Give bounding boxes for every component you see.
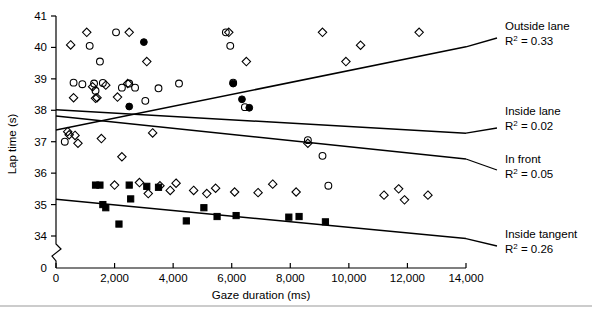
x-tick-label: 14,000 [448,272,483,284]
x-tick-label: 12,000 [390,272,425,284]
data-point [214,213,220,219]
legend-r-squared-label: R2 = 0.33 [505,34,553,47]
data-point [201,205,207,211]
x-tick-label: 8,000 [276,272,305,284]
y-axis-break-zero-label: 0 [41,262,47,274]
data-point [126,182,132,188]
data-point [116,221,122,227]
legend-r-squared-label: R2 = 0.26 [505,242,553,255]
y-tick-label: 36 [34,167,47,179]
data-point [239,96,246,103]
data-point [126,103,133,110]
legend-r-squared-label: R2 = 0.05 [505,167,553,180]
y-axis-title: Lap time (s) [6,113,18,174]
x-tick-label: 0 [53,272,59,284]
x-tick-label: 6,000 [217,272,246,284]
data-point [233,212,239,218]
data-point [144,183,150,189]
x-axis-title: Gaze duration (ms) [212,289,311,301]
data-point [103,205,109,211]
y-tick-label: 37 [34,136,47,148]
chart-canvas: 3435363738394041002,0004,0006,0008,00010… [0,0,592,318]
data-point [322,219,328,225]
legend-series-label: Inside lane [505,105,561,117]
x-tick-label: 2,000 [100,272,129,284]
data-point [140,39,147,46]
x-tick-label: 10,000 [331,272,366,284]
legend-series-label: Outside lane [505,20,570,32]
x-tick-label: 4,000 [159,272,188,284]
legend-series-label: In front [505,153,542,165]
scatter-plot-figure: 3435363738394041002,0004,0006,0008,00010… [0,0,592,318]
y-tick-label: 40 [34,41,47,53]
plot-background [0,0,592,318]
y-tick-label: 38 [34,104,47,116]
y-tick-label: 39 [34,73,47,85]
y-tick-label: 41 [34,10,47,22]
data-point [183,218,189,224]
legend-r-squared-label: R2 = 0.02 [505,119,553,132]
data-point [97,182,103,188]
data-point [296,213,302,219]
data-point [155,184,161,190]
data-point [286,214,292,220]
y-tick-label: 35 [34,199,47,211]
legend-series-label: Inside tangent [505,228,578,240]
y-tick-label: 34 [34,230,47,242]
data-point [128,196,134,202]
